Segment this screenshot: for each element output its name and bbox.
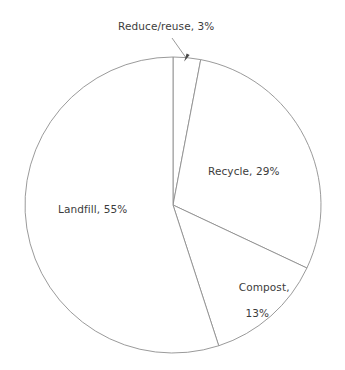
pie-label-compost-value: 13% xyxy=(225,307,290,320)
pie-label-recycle: Recycle, 29% xyxy=(208,165,280,178)
leader-line xyxy=(172,38,187,59)
pie-chart-svg xyxy=(0,0,345,370)
pie-label-compost-name: Compost, xyxy=(239,281,290,293)
pie-label-compost: Compost, 13% xyxy=(225,268,290,346)
pie-label-landfill: Landfill, 55% xyxy=(58,203,127,216)
pie-chart: Reduce/reuse, 3% Recycle, 29% Landfill, … xyxy=(0,0,345,370)
pie-label-reduce-reuse: Reduce/reuse, 3% xyxy=(118,20,214,33)
